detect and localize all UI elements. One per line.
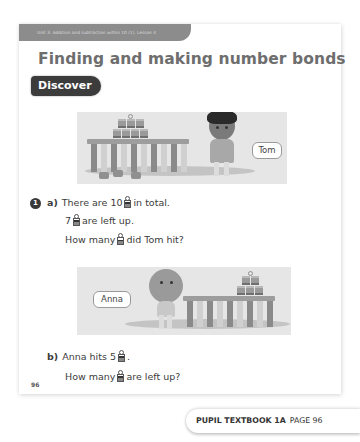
text: are left up? — [126, 371, 180, 382]
table-legs — [187, 301, 273, 327]
textbook-reference-badge: PUPIL TEXTBOOK 1APAGE 96 — [186, 409, 360, 433]
can-stack — [113, 114, 148, 138]
tin-can-icon — [117, 370, 124, 382]
page-number: 96 — [31, 381, 39, 388]
page-title: Finding and making number bonds — [38, 50, 346, 68]
text: There are 10 — [62, 197, 123, 208]
text: in total. — [133, 197, 169, 208]
can-stack — [237, 271, 263, 295]
text: did Tom hit? — [126, 234, 183, 245]
part-a-label: a) — [47, 197, 58, 208]
fallen-can — [113, 170, 123, 177]
fallen-can — [131, 172, 141, 179]
question-number-badge: 1 — [30, 198, 41, 209]
tin-can-icon — [73, 214, 80, 226]
table-legs — [91, 144, 187, 172]
part-b-label: b) — [47, 351, 58, 362]
unit-banner: Unit 3: Addition and subtraction within … — [19, 24, 191, 41]
book-page: PAGE 96 — [290, 416, 323, 425]
tin-can-icon — [118, 350, 125, 362]
illustration-tom-cans: Tom — [77, 112, 287, 184]
tin-can-icon — [124, 196, 131, 208]
tin-can-icon — [117, 233, 124, 245]
book-title: PUPIL TEXTBOOK 1A — [196, 416, 286, 425]
textbook-page: Unit 3: Addition and subtraction within … — [19, 24, 341, 394]
text: are left up. — [82, 215, 134, 226]
text: How many — [65, 371, 115, 382]
name-tag-anna: Anna — [93, 291, 131, 308]
fallen-can — [99, 172, 109, 179]
text: . — [127, 351, 130, 362]
text: 7 — [65, 215, 71, 226]
discover-section-label: Discover — [31, 76, 101, 96]
text: Anna hits 5 — [62, 351, 116, 362]
text: How many — [65, 234, 115, 245]
illustration-anna-cans: Anna — [77, 267, 291, 335]
name-tag-tom: Tom — [252, 142, 282, 159]
